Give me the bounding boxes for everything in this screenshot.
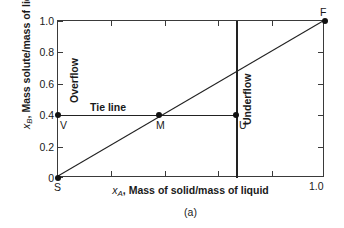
figure-caption: (a) bbox=[57, 206, 324, 218]
data-point-label-M: M bbox=[156, 120, 165, 131]
x-axis-title-subscript: A bbox=[118, 189, 123, 198]
y-axis-title: xB, Mass solute/mass of liquid bbox=[20, 0, 32, 144]
underflow-annotation: Underflow bbox=[241, 74, 253, 125]
data-point-label-V: V bbox=[60, 120, 67, 131]
y-axis-title-subscript: B bbox=[25, 118, 34, 123]
y-tick-label-0: 0 bbox=[28, 173, 54, 184]
overflow-annotation: Overflow bbox=[68, 58, 80, 103]
x-axis-title: xA, Mass of solid/mass of liquid bbox=[57, 184, 324, 196]
y-axis-title-rest: , Mass solute/mass of liquid bbox=[20, 0, 32, 118]
underflow-locus-line bbox=[58, 21, 323, 176]
underflow-vertical-line bbox=[236, 21, 238, 178]
data-point-V bbox=[55, 112, 61, 118]
data-point-label-U: U bbox=[239, 120, 247, 131]
tie-line-segment bbox=[58, 115, 237, 116]
data-point-U bbox=[233, 112, 239, 118]
figure-container: 1.0 0.8 0.6 0.4 0.2 0 1.0 xB, Mass solut… bbox=[0, 0, 344, 228]
y-axis-title-symbol: x bbox=[20, 124, 32, 129]
data-point-label-S: S bbox=[54, 182, 61, 193]
plot-area: Overflow Underflow Tie line S V M U F bbox=[57, 20, 324, 177]
data-point-M bbox=[156, 112, 162, 118]
data-point-label-F: F bbox=[320, 7, 326, 18]
x-axis-title-rest: , Mass of solid/mass of liquid bbox=[123, 184, 269, 196]
tie-line-annotation: Tie line bbox=[90, 101, 126, 113]
data-point-F bbox=[322, 18, 328, 24]
x-axis-title-symbol: x bbox=[112, 184, 117, 196]
